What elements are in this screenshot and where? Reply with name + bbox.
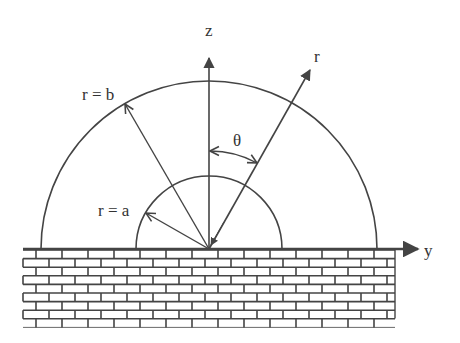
theta-label: θ: [233, 131, 241, 150]
radius-a-arrow: [146, 213, 209, 249]
r-axis-origin-arrow: [211, 222, 224, 245]
y-axis-label: y: [424, 241, 433, 260]
z-axis-label: z: [205, 21, 213, 40]
outer-radius-label: r = b: [82, 85, 114, 104]
brick-wall: [23, 250, 395, 327]
r-axis-label: r: [314, 47, 320, 66]
diagram-canvas: y z r r = b r = a θ: [0, 0, 460, 343]
theta-angle-arc: [210, 151, 257, 163]
inner-radius-label: r = a: [98, 201, 130, 220]
